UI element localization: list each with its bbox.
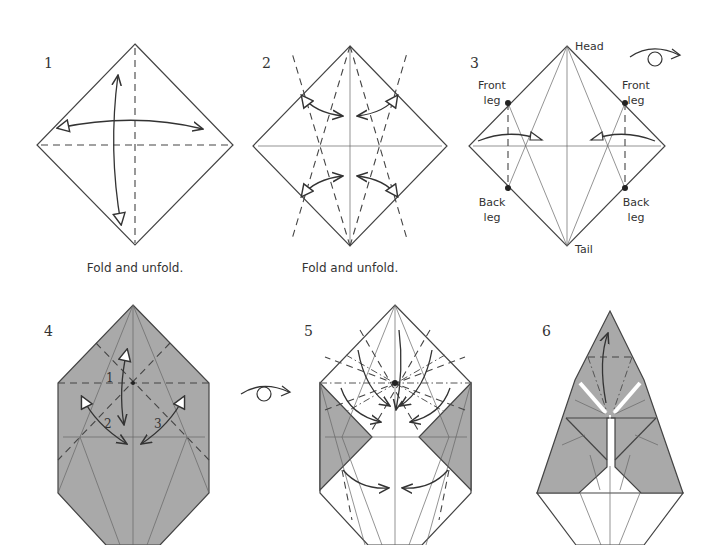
step-4-number: 4 — [44, 323, 53, 339]
step-2: 2 Fold and unfold. — [253, 46, 447, 275]
valley-fold — [292, 46, 350, 239]
head-label: Head — [575, 40, 604, 53]
arrow-head — [530, 132, 542, 140]
turn-over-arc — [630, 49, 679, 57]
step-5: 5 — [304, 305, 471, 545]
back-leg-label-left-1: Back — [479, 196, 506, 209]
crease — [508, 103, 567, 246]
back-leg-label-right-1: Back — [623, 196, 650, 209]
front-leg-label-left-1: Front — [478, 79, 507, 92]
center-gap — [609, 415, 611, 466]
folded-paper-shaded — [58, 305, 209, 545]
fold-unfold-arrow-vertical — [114, 75, 121, 224]
turn-over-icon — [630, 49, 680, 66]
back-leg-point-right — [622, 185, 628, 191]
front-leg-label-right-1: Front — [622, 79, 651, 92]
sub-step-2: 2 — [104, 417, 112, 431]
center-point — [392, 380, 398, 386]
crease — [567, 46, 625, 188]
front-leg-label-right-2: leg — [628, 94, 645, 107]
step-1-caption: Fold and unfold. — [87, 261, 184, 275]
back-leg-label-left-2: leg — [484, 211, 501, 224]
step-3: 3 Head Tail Front leg Front leg Back leg… — [469, 40, 680, 256]
turn-over-circle — [257, 387, 271, 401]
valley-fold — [292, 53, 350, 246]
sub-step-1: 1 — [106, 371, 114, 385]
step-2-caption: Fold and unfold. — [302, 261, 399, 275]
step-6: 6 — [537, 311, 683, 545]
reference-point — [131, 381, 135, 385]
step-1-number: 1 — [44, 55, 53, 71]
front-leg-label-left-2: leg — [484, 94, 501, 107]
back-leg-label-right-2: leg — [628, 211, 645, 224]
crease — [567, 103, 625, 246]
step-4: 4 1 2 3 — [44, 305, 209, 545]
sub-step-3: 3 — [154, 417, 162, 431]
step-3-number: 3 — [470, 55, 479, 71]
arrow-head — [591, 132, 603, 140]
tail-label: Tail — [574, 243, 593, 256]
step-2-number: 2 — [262, 55, 271, 71]
turn-over-circle — [648, 52, 662, 66]
back-leg-point-left — [505, 185, 511, 191]
origami-diagram: 1 Fold and unfold. 2 Fold and unfold. 3 — [0, 0, 721, 545]
crease — [508, 46, 567, 188]
step-6-number: 6 — [542, 323, 551, 339]
step-1: 1 Fold and unfold. — [37, 44, 233, 275]
front-leg-point-left — [505, 100, 511, 106]
step-5-number: 5 — [304, 323, 313, 339]
turn-over-icon — [241, 386, 290, 401]
fold-unfold-arrow-horizontal — [58, 120, 203, 129]
